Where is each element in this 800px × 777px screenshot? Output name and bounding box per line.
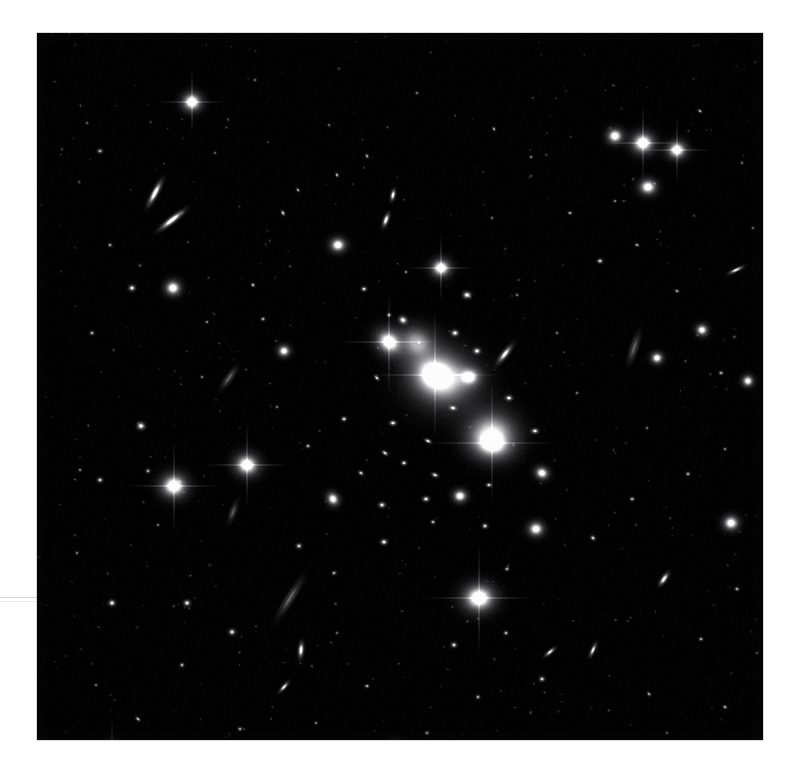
- scan-artifact-upper: [0, 597, 38, 598]
- sky-field: [37, 33, 763, 740]
- astronomical-plate-image: [37, 33, 763, 740]
- scan-artifact-lower: [0, 601, 38, 602]
- page-canvas: [0, 0, 800, 777]
